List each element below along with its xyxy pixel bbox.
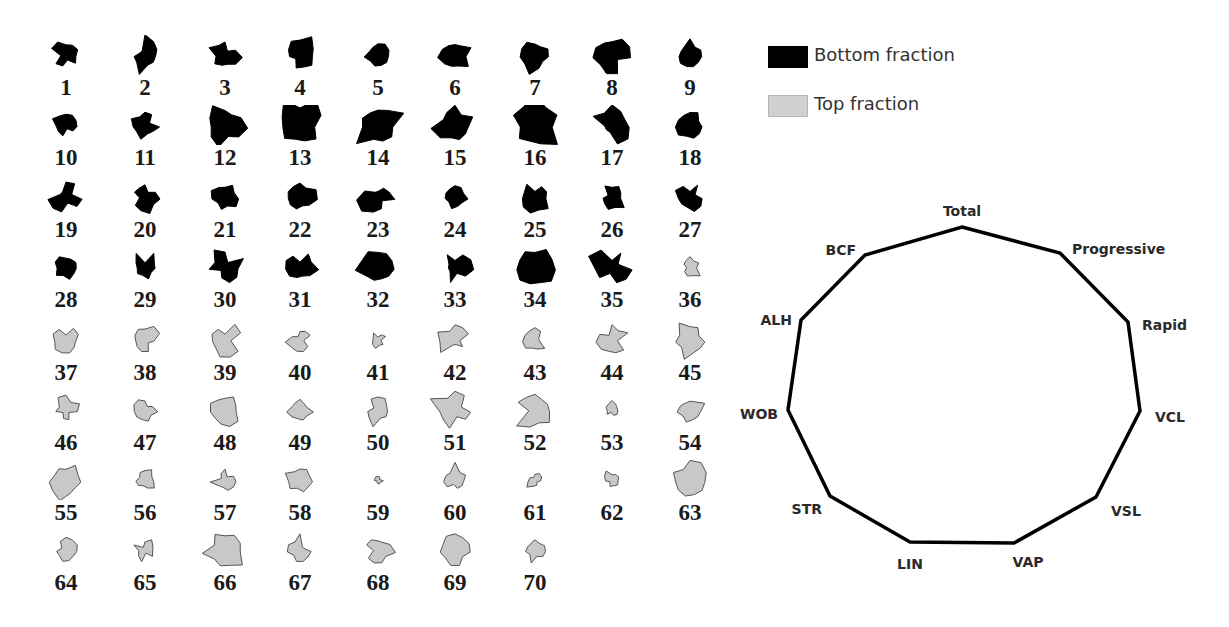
glyph-cell: 1 xyxy=(31,35,101,105)
glyph-cell: 53 xyxy=(577,390,647,460)
glyph-top-fraction xyxy=(582,320,642,360)
glyph-cell: 12 xyxy=(190,105,260,175)
glyph-number-label: 21 xyxy=(190,217,260,243)
glyph-number-label: 27 xyxy=(655,217,725,243)
glyph-number-label: 37 xyxy=(31,360,101,386)
glyph-cell: 41 xyxy=(343,320,413,390)
axis-label-rapid: Rapid xyxy=(1142,317,1187,333)
glyph-number-label: 22 xyxy=(265,217,335,243)
glyph-number-label: 54 xyxy=(655,430,725,456)
glyph-cell: 68 xyxy=(343,530,413,600)
glyph-top-fraction xyxy=(270,530,330,570)
glyph-bottom-fraction xyxy=(348,105,408,145)
glyph-top-fraction xyxy=(115,390,175,430)
glyph-cell: 22 xyxy=(265,177,335,247)
glyph-cell: 58 xyxy=(265,460,335,530)
legend-swatch-black xyxy=(768,46,808,68)
glyph-cell: 21 xyxy=(190,177,260,247)
glyph-bottom-fraction xyxy=(425,247,485,287)
glyph-cell: 2 xyxy=(110,35,180,105)
glyph-number-label: 64 xyxy=(31,570,101,596)
axis-label-total: Total xyxy=(943,203,981,219)
glyph-cell: 51 xyxy=(420,390,490,460)
glyph-cell: 14 xyxy=(343,105,413,175)
glyph-bottom-fraction xyxy=(36,177,96,217)
glyph-number-label: 29 xyxy=(110,287,180,313)
glyph-cell: 20 xyxy=(110,177,180,247)
glyph-number-label: 59 xyxy=(343,500,413,526)
glyph-cell: 7 xyxy=(500,35,570,105)
glyph-number-label: 36 xyxy=(655,287,725,313)
glyph-cell: 67 xyxy=(265,530,335,600)
glyph-cell: 55 xyxy=(31,460,101,530)
glyph-top-fraction xyxy=(36,530,96,570)
glyph-number-label: 35 xyxy=(577,287,647,313)
glyph-top-fraction xyxy=(425,460,485,500)
glyph-number-label: 41 xyxy=(343,360,413,386)
glyph-cell: 6 xyxy=(420,35,490,105)
glyph-cell: 13 xyxy=(265,105,335,175)
glyph-number-label: 63 xyxy=(655,500,725,526)
glyph-cell: 70 xyxy=(500,530,570,600)
glyph-cell: 26 xyxy=(577,177,647,247)
glyph-cell: 66 xyxy=(190,530,260,600)
glyph-number-label: 18 xyxy=(655,145,725,171)
glyph-bottom-fraction xyxy=(505,105,565,145)
glyph-cell: 33 xyxy=(420,247,490,317)
glyph-number-label: 42 xyxy=(420,360,490,386)
glyph-top-fraction xyxy=(36,460,96,500)
glyph-cell: 32 xyxy=(343,247,413,317)
glyph-cell: 69 xyxy=(420,530,490,600)
glyph-number-label: 3 xyxy=(190,75,260,101)
glyph-cell: 54 xyxy=(655,390,725,460)
glyph-bottom-fraction xyxy=(270,247,330,287)
glyph-cell: 44 xyxy=(577,320,647,390)
glyph-bottom-fraction xyxy=(36,35,96,75)
glyph-number-label: 66 xyxy=(190,570,260,596)
glyph-cell: 3 xyxy=(190,35,260,105)
glyph-number-label: 39 xyxy=(190,360,260,386)
glyph-bottom-fraction xyxy=(505,247,565,287)
glyph-cell: 29 xyxy=(110,247,180,317)
glyph-top-fraction xyxy=(195,460,255,500)
glyph-cell: 45 xyxy=(655,320,725,390)
glyph-top-fraction xyxy=(270,390,330,430)
glyph-bottom-fraction xyxy=(115,105,175,145)
glyph-bottom-fraction xyxy=(660,105,720,145)
glyph-bottom-fraction xyxy=(348,177,408,217)
glyph-cell: 5 xyxy=(343,35,413,105)
glyph-cell: 38 xyxy=(110,320,180,390)
glyph-number-label: 52 xyxy=(500,430,570,456)
glyph-bottom-fraction xyxy=(195,177,255,217)
glyph-number-label: 44 xyxy=(577,360,647,386)
glyph-bottom-fraction xyxy=(195,35,255,75)
glyph-bottom-fraction xyxy=(348,35,408,75)
glyph-top-fraction xyxy=(582,460,642,500)
glyph-bottom-fraction xyxy=(582,177,642,217)
axis-label-progressive: Progressive xyxy=(1072,241,1165,257)
glyph-cell: 43 xyxy=(500,320,570,390)
glyph-bottom-fraction xyxy=(36,247,96,287)
glyph-bottom-fraction xyxy=(660,35,720,75)
glyph-bottom-fraction xyxy=(115,247,175,287)
glyph-cell: 34 xyxy=(500,247,570,317)
glyph-number-label: 49 xyxy=(265,430,335,456)
glyph-number-label: 62 xyxy=(577,500,647,526)
glyph-cell: 59 xyxy=(343,460,413,530)
glyph-number-label: 23 xyxy=(343,217,413,243)
glyph-number-label: 14 xyxy=(343,145,413,171)
glyph-cell: 62 xyxy=(577,460,647,530)
glyph-top-fraction xyxy=(505,460,565,500)
radar-outline xyxy=(788,227,1140,543)
axis-label-str: STR xyxy=(792,501,823,517)
glyph-number-label: 65 xyxy=(110,570,180,596)
glyph-number-label: 60 xyxy=(420,500,490,526)
glyph-cell: 49 xyxy=(265,390,335,460)
glyph-bottom-fraction xyxy=(348,247,408,287)
glyph-cell: 42 xyxy=(420,320,490,390)
glyph-top-fraction xyxy=(270,320,330,360)
glyph-number-label: 13 xyxy=(265,145,335,171)
axis-label-vap: VAP xyxy=(1013,554,1044,570)
glyph-number-label: 53 xyxy=(577,430,647,456)
glyph-cell: 15 xyxy=(420,105,490,175)
